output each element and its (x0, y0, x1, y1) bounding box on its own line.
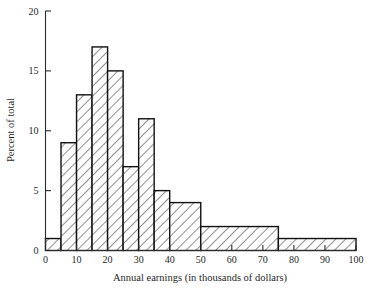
x-tick-label: 100 (349, 254, 364, 265)
chart-canvas: 05101520 0102030405060708090100 Annual e… (0, 0, 371, 289)
x-tick-label: 90 (320, 254, 330, 265)
x-tick-label: 80 (289, 254, 299, 265)
y-tick-label: 15 (29, 65, 39, 76)
x-tick-label: 60 (227, 254, 237, 265)
x-tick-label: 0 (43, 254, 48, 265)
x-tick-label: 40 (165, 254, 175, 265)
histogram-bar (61, 143, 77, 251)
histogram-chart: 05101520 0102030405060708090100 Annual e… (0, 0, 371, 289)
x-tick-label: 10 (72, 254, 82, 265)
x-tick-label: 20 (103, 254, 113, 265)
x-tick-label: 70 (258, 254, 268, 265)
histogram-bar (170, 203, 201, 251)
x-axis-title: Annual earnings (in thousands of dollars… (113, 272, 288, 284)
histogram-bar (201, 227, 279, 251)
histogram-bar (46, 239, 62, 251)
histogram-bar (123, 167, 139, 251)
y-tick-label: 0 (34, 245, 39, 256)
histogram-bar (77, 95, 93, 251)
y-tick-label: 10 (29, 125, 39, 136)
y-tick-label: 5 (34, 185, 39, 196)
histogram-bar (92, 47, 108, 251)
histogram-bar (108, 71, 124, 251)
histogram-bar (139, 119, 155, 251)
histogram-bar (154, 191, 170, 251)
y-axis-title: Percent of total (5, 98, 16, 162)
y-tick-label: 20 (29, 6, 39, 17)
x-tick-label: 50 (196, 254, 206, 265)
histogram-bar (278, 239, 356, 251)
x-tick-label: 30 (134, 254, 144, 265)
